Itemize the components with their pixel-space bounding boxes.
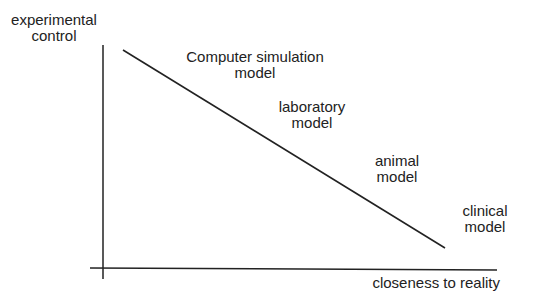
model-label-clinical: clinical model [450,203,520,235]
y-axis-label: experimental control [0,12,108,44]
model-label-line: model [160,65,350,81]
model-label-line: model [262,115,362,131]
model-label-line: animal [362,153,432,169]
model-label-line: model [362,169,432,185]
model-label-line: clinical [450,203,520,219]
y-axis-label-line2: control [0,28,108,44]
y-axis-label-line1: experimental [0,12,108,28]
model-label-animal: animal model [362,153,432,185]
model-label-computer-simulation: Computer simulation model [160,49,350,81]
model-label-line: Computer simulation [160,49,350,65]
model-label-line: model [450,219,520,235]
model-label-line: laboratory [262,99,362,115]
model-label-laboratory: laboratory model [262,99,362,131]
x-axis-label: closeness to reality [338,275,500,291]
x-axis [90,268,497,270]
diagram-canvas [0,0,536,308]
